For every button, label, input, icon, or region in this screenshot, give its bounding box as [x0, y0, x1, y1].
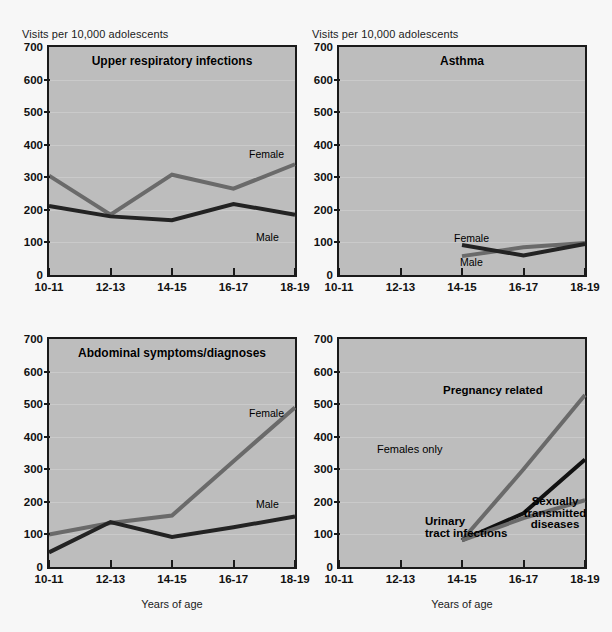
series-lines	[49, 339, 295, 567]
y-tick-label: 100	[9, 528, 43, 540]
y-tick-label: 400	[299, 139, 333, 151]
x-tick-mark	[294, 560, 296, 567]
x-tick-mark	[461, 560, 463, 567]
y-axis-title-asthma: Visits per 10,000 adolescents	[312, 28, 458, 40]
y-tick-mark	[44, 501, 50, 503]
y-tick-label: 700	[299, 333, 333, 345]
x-tick-label: 16-17	[219, 281, 248, 293]
x-tick-mark	[523, 268, 525, 275]
x-axis-caption-female-conditions: Years of age	[431, 598, 492, 610]
y-tick-mark	[44, 533, 50, 535]
y-tick-label: 700	[9, 333, 43, 345]
series-label-abdominal-male: Male	[256, 498, 279, 510]
uti-label-line1: Urinary	[425, 515, 465, 527]
y-tick-mark	[44, 403, 50, 405]
annotation-females-only: Females only	[377, 443, 442, 455]
x-tick-mark	[233, 268, 235, 275]
series-line-female	[49, 407, 295, 534]
std-label-line2: transmitted	[524, 507, 587, 519]
y-tick-label: 0	[9, 269, 43, 281]
x-tick-mark	[584, 268, 586, 275]
y-tick-mark	[44, 79, 50, 81]
x-tick-mark	[171, 268, 173, 275]
y-tick-label: 400	[299, 431, 333, 443]
y-tick-mark	[44, 209, 50, 211]
chart-title-abdominal: Abdominal symptoms/diagnoses	[78, 346, 266, 360]
y-axis-title-uri: Visits per 10,000 adolescents	[22, 28, 168, 40]
y-tick-label: 0	[9, 561, 43, 573]
x-tick-mark	[294, 268, 296, 275]
x-tick-label: 18-19	[570, 281, 599, 293]
y-tick-label: 200	[9, 204, 43, 216]
x-tick-mark	[338, 268, 340, 275]
y-tick-label: 200	[299, 204, 333, 216]
x-axis-caption-abdominal: Years of age	[141, 598, 202, 610]
x-tick-mark	[48, 560, 50, 567]
series-label-sexually-transmitted-diseases: Sexually transmitted diseases	[515, 496, 595, 531]
panel-upper-respiratory-infections: Visits per 10,000 adolescents 7006005004…	[0, 0, 306, 316]
y-tick-label: 300	[299, 463, 333, 475]
y-tick-mark	[334, 501, 340, 503]
x-tick-mark	[461, 268, 463, 275]
y-tick-label: 700	[299, 41, 333, 53]
y-tick-mark	[44, 111, 50, 113]
series-label-uri-male: Male	[256, 231, 279, 243]
x-tick-label: 18-19	[570, 573, 599, 585]
y-tick-mark	[44, 371, 50, 373]
y-tick-label: 300	[9, 171, 43, 183]
x-tick-mark	[110, 268, 112, 275]
x-tick-label: 12-13	[386, 281, 415, 293]
y-tick-label: 200	[299, 496, 333, 508]
x-tick-label: 16-17	[219, 573, 248, 585]
plot-area-abdominal: 700600500400300200100010-1112-1314-1516-…	[47, 337, 297, 569]
x-tick-label: 10-11	[35, 573, 64, 585]
x-tick-mark	[48, 268, 50, 275]
x-tick-mark	[233, 560, 235, 567]
x-tick-label: 10-11	[325, 281, 354, 293]
x-tick-mark	[584, 560, 586, 567]
std-label-line3: diseases	[531, 518, 580, 530]
series-line-male	[49, 204, 295, 220]
y-tick-label: 0	[299, 269, 333, 281]
y-tick-label: 500	[299, 106, 333, 118]
series-label-pregnancy-related: Pregnancy related	[443, 384, 543, 396]
x-tick-label: 14-15	[447, 573, 476, 585]
series-label-uri-female: Female	[249, 148, 284, 160]
y-tick-label: 700	[9, 41, 43, 53]
y-tick-label: 400	[9, 431, 43, 443]
y-tick-label: 400	[9, 139, 43, 151]
y-tick-label: 600	[299, 366, 333, 378]
y-tick-mark	[334, 111, 340, 113]
x-tick-label: 12-13	[386, 573, 415, 585]
x-tick-label: 12-13	[96, 573, 125, 585]
y-tick-label: 500	[9, 398, 43, 410]
x-tick-mark	[400, 560, 402, 567]
y-tick-mark	[334, 176, 340, 178]
y-tick-mark	[334, 371, 340, 373]
std-label-line1: Sexually	[532, 495, 579, 507]
panel-female-specific-conditions: 700600500400300200100010-1112-1314-1516-…	[306, 316, 612, 632]
x-tick-label: 14-15	[157, 281, 186, 293]
y-tick-label: 200	[9, 496, 43, 508]
x-tick-mark	[523, 560, 525, 567]
y-tick-label: 600	[9, 366, 43, 378]
y-tick-label: 100	[299, 236, 333, 248]
x-tick-label: 16-17	[509, 281, 538, 293]
y-tick-mark	[44, 241, 50, 243]
uti-label-line2: tract infections	[425, 527, 507, 539]
series-label-asthma-female: Female	[454, 232, 489, 244]
x-tick-mark	[110, 560, 112, 567]
y-tick-label: 600	[9, 74, 43, 86]
y-tick-mark	[334, 436, 340, 438]
y-tick-label: 300	[299, 171, 333, 183]
y-tick-label: 0	[299, 561, 333, 573]
panel-asthma: Visits per 10,000 adolescents 7006005004…	[306, 0, 612, 316]
chart-title-uri: Upper respiratory infections	[92, 54, 253, 68]
y-tick-mark	[334, 403, 340, 405]
x-tick-label: 12-13	[96, 281, 125, 293]
x-tick-label: 14-15	[157, 573, 186, 585]
y-tick-mark	[44, 144, 50, 146]
x-tick-mark	[338, 560, 340, 567]
series-line-male	[49, 517, 295, 553]
y-tick-mark	[334, 468, 340, 470]
